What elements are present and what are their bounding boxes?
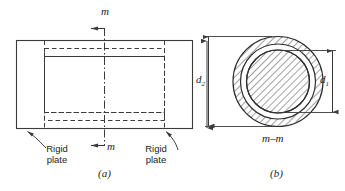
figure-container: m m Rigid plate Rigid plate (a) d2 d1 m–… xyxy=(0,0,345,191)
right-rigid-plate-label: Rigid plate xyxy=(135,143,177,165)
dimension-label-d1-subscript: 1 xyxy=(326,80,330,88)
left-rigid-plate-label: Rigid plate xyxy=(36,143,78,165)
left-rigid-plate-label-line1: Rigid xyxy=(46,143,68,154)
dimension-label-d1: d1 xyxy=(320,74,329,90)
right-rigid-plate-label-line1: Rigid xyxy=(145,143,167,154)
right-rigid-plate-label-line2: plate xyxy=(146,154,167,165)
caption-view-b: (b) xyxy=(270,167,283,179)
inner-core-hatch xyxy=(247,51,309,113)
dimension-label-d2-subscript: 2 xyxy=(202,80,206,88)
section-title-m-m: m–m xyxy=(262,133,283,144)
section-label-bottom: m xyxy=(107,141,115,152)
view-a-group xyxy=(17,28,208,150)
caption-view-a: (a) xyxy=(98,167,111,179)
left-rigid-plate-label-line2: plate xyxy=(47,154,68,165)
section-label-top: m xyxy=(101,6,109,17)
dimension-label-d2: d2 xyxy=(196,74,205,90)
view-b-group xyxy=(205,37,336,127)
